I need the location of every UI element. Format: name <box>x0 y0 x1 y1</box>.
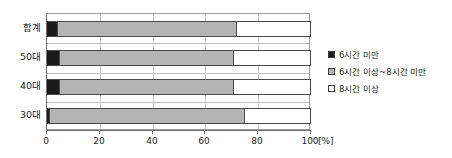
row-separator <box>47 73 309 74</box>
row-separator <box>47 43 309 44</box>
bar-segment <box>60 50 234 66</box>
white-square-icon <box>328 85 335 92</box>
y-axis-tick-label: 40대 <box>0 80 41 92</box>
bar-segment <box>47 21 58 37</box>
gray-square-icon <box>328 68 335 75</box>
bar-row <box>47 21 311 37</box>
black-square-icon <box>328 51 335 58</box>
bar-segment <box>237 21 311 37</box>
bar-row <box>47 79 311 95</box>
y-axis-line <box>46 13 47 130</box>
x-axis-tick-label: 60 <box>198 136 209 147</box>
x-axis-unit-label: [%] <box>318 136 334 147</box>
bar-segment <box>234 79 311 95</box>
stacked-bar-chart: 020406080100 [%] 합계50대40대30대 6시간 미만6시간 이… <box>0 0 452 158</box>
bar-segment <box>50 108 245 124</box>
bar-segment <box>245 108 311 124</box>
chart-legend: 6시간 미만6시간 이상~8시간 미만8시간 이상 <box>328 46 452 97</box>
legend-item[interactable]: 8시간 이상 <box>328 80 452 97</box>
row-separator <box>47 102 309 103</box>
plot-area <box>46 13 310 130</box>
legend-item-label: 6시간 이상~8시간 미만 <box>339 67 426 77</box>
x-axis-tick <box>257 130 258 134</box>
legend-item[interactable]: 6시간 이상~8시간 미만 <box>328 63 452 80</box>
bar-row <box>47 108 311 124</box>
legend-item-label: 8시간 이상 <box>339 84 379 94</box>
bar-row <box>47 50 311 66</box>
x-axis-tick <box>46 130 47 134</box>
x-axis-tick <box>99 130 100 134</box>
x-axis-tick-label: 100 <box>301 136 318 147</box>
x-axis-tick-label: 20 <box>93 136 104 147</box>
bar-segment <box>47 79 60 95</box>
y-axis-tick-label: 합계 <box>0 22 41 34</box>
x-axis-tick <box>204 130 205 134</box>
bar-segment <box>234 50 311 66</box>
y-axis-tick-label: 30대 <box>0 109 41 121</box>
bar-segment <box>60 79 234 95</box>
x-axis-tick <box>310 130 311 134</box>
bar-segment <box>58 21 238 37</box>
x-axis-tick <box>152 130 153 134</box>
x-axis-tick-label: 80 <box>251 136 262 147</box>
bar-segment <box>47 50 60 66</box>
x-axis-line <box>46 130 311 131</box>
x-axis-tick-label: 0 <box>43 136 49 147</box>
y-axis-tick-label: 50대 <box>0 51 41 63</box>
legend-item[interactable]: 6시간 미만 <box>328 46 452 63</box>
legend-item-label: 6시간 미만 <box>339 50 379 60</box>
x-axis-tick-label: 40 <box>146 136 157 147</box>
